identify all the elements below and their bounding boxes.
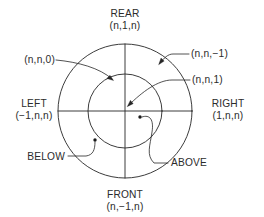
leader-line-below (68, 142, 95, 156)
label-front-coords: (n,−1,n) (107, 201, 144, 212)
direction-sphere-figure: REAR (n,1,n) FRONT (n,−1,n) LEFT (−1,n,n… (0, 0, 264, 217)
label-back-plane: (n,n,−1) (191, 48, 228, 59)
diagram-canvas: REAR (n,1,n) FRONT (n,−1,n) LEFT (−1,n,n… (0, 0, 264, 217)
leader-line-back-plane (160, 54, 189, 63)
label-right-name: RIGHT (212, 98, 245, 109)
label-front-name: FRONT (107, 189, 143, 200)
label-left-coords: (−1,n,n) (16, 110, 53, 121)
leader-line-outer-ring (56, 60, 112, 79)
label-below: BELOW (27, 151, 65, 162)
below-point-dot (93, 138, 96, 141)
label-front-plane: (n,n,1) (192, 74, 223, 85)
label-above: ABOVE (171, 157, 207, 168)
above-point-dot (138, 115, 141, 118)
leader-line-front-plane (129, 80, 190, 105)
label-right-coords: (1,n,n) (213, 110, 244, 121)
label-rear-coords: (n,1,n) (110, 20, 141, 31)
label-left-name: LEFT (21, 98, 47, 109)
leader-line-above (142, 116, 168, 163)
label-outer-ring: (n,n,0) (24, 54, 55, 65)
label-rear-name: REAR (110, 8, 139, 19)
